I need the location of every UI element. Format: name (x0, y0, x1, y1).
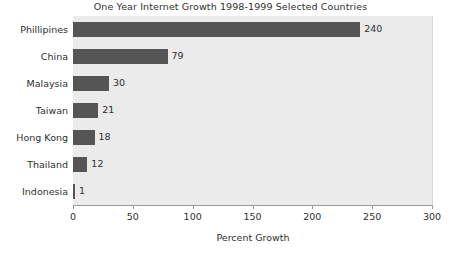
category-label: Thailand (0, 157, 68, 172)
x-tick-label: 0 (70, 211, 76, 222)
category-label: Phillipines (0, 22, 68, 37)
category-label: Hong Kong (0, 130, 68, 145)
x-tick-label: 150 (243, 211, 261, 222)
category-label: Malaysia (0, 76, 68, 91)
x-axis-title: Percent Growth (73, 232, 433, 243)
x-tick-mark (253, 205, 254, 209)
x-tick-label: 50 (127, 211, 139, 222)
x-axis-ticks: 050100150200250300 (0, 205, 461, 235)
chart-title: One Year Internet Growth 1998-1999 Selec… (0, 1, 461, 12)
x-tick-mark (312, 205, 313, 209)
x-tick-mark (193, 205, 194, 209)
x-tick-mark (133, 205, 134, 209)
category-label: Taiwan (0, 103, 68, 118)
category-label: China (0, 49, 68, 64)
x-tick-label: 200 (303, 211, 321, 222)
x-tick-mark (372, 205, 373, 209)
x-tick-mark (432, 205, 433, 209)
x-tick-mark (73, 205, 74, 209)
category-label: Indonesia (0, 184, 68, 199)
x-tick-label: 250 (363, 211, 381, 222)
x-tick-label: 100 (184, 211, 202, 222)
x-tick-label: 300 (423, 211, 441, 222)
bar-chart: One Year Internet Growth 1998-1999 Selec… (0, 0, 461, 262)
category-axis-labels: PhillipinesChinaMalaysiaTaiwanHong KongT… (0, 16, 461, 205)
